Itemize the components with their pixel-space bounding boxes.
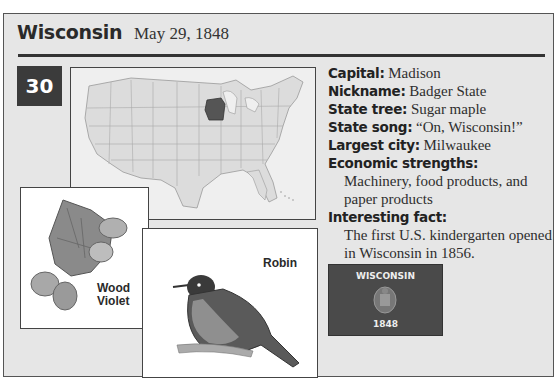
fact-capital: Capital: Madison	[328, 64, 553, 82]
flag-title: WISCONSIN	[329, 271, 442, 281]
fact-largest-city: Largest city: Milwaukee	[328, 136, 553, 154]
facts-panel: Capital: Madison Nickname: Badger State …	[328, 64, 553, 262]
title-divider	[18, 54, 545, 57]
fact-state-tree: State tree: Sugar maple	[328, 100, 553, 118]
fact-interesting-value: The first U.S. kindergarten opened in Wi…	[328, 226, 553, 262]
state-card: Wisconsin May 29, 1848 30 Ca	[3, 13, 554, 377]
fact-economic-label: Economic strengths:	[328, 154, 553, 172]
bird-caption: Robin	[263, 257, 297, 270]
fact-interesting-label: Interesting fact:	[328, 208, 553, 226]
state-name: Wisconsin	[17, 21, 122, 43]
state-flower-panel: Wood Violet	[20, 187, 149, 329]
admission-date: May 29, 1848	[134, 24, 229, 44]
fact-nickname: Nickname: Badger State	[328, 82, 553, 100]
flag-year: 1848	[329, 319, 442, 329]
state-flag: WISCONSIN 1848	[328, 264, 443, 336]
fact-economic-value: Machinery, food products, and paper prod…	[328, 172, 553, 208]
fact-state-song: State song: “On, Wisconsin!”	[328, 118, 553, 136]
statehood-order-badge: 30	[17, 66, 62, 106]
flower-caption: Wood Violet	[97, 282, 130, 308]
state-bird-panel: Robin	[142, 228, 318, 378]
robin-icon	[143, 229, 317, 377]
state-seal-icon	[370, 284, 400, 316]
